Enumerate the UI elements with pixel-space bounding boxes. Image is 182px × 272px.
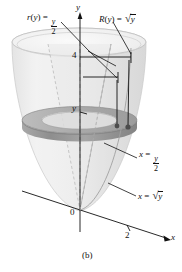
x-axis-arrowhead — [164, 236, 172, 242]
label-parabola-curve: x = √y — [138, 190, 163, 201]
label-line-curve-denominator: 2 — [153, 165, 159, 173]
label-outer-radius-radicand: y — [130, 14, 136, 24]
y-axis-arrowhead — [78, 12, 83, 19]
label-line-curve-lhs: x — [139, 149, 143, 159]
label-outer-radius: R(y) = √y — [99, 13, 136, 24]
label-line-curve: x = y 2 — [139, 150, 160, 173]
label-outer-radius-radical: √y — [124, 13, 136, 24]
label-x-tick-2: 2 — [125, 231, 130, 240]
label-origin: 0 — [70, 208, 75, 217]
label-parabola-curve-lhs: x — [138, 191, 142, 201]
label-parabola-curve-radicand: y — [158, 191, 164, 201]
label-inner-radius: r(y) = y 2 — [27, 13, 57, 36]
label-line-curve-fraction: y 2 — [153, 155, 159, 173]
label-line-curve-equals: = — [145, 149, 150, 159]
label-outer-radius-equals: = — [117, 14, 122, 24]
outer-radius-point — [125, 124, 130, 129]
label-y-axis: y — [76, 3, 80, 12]
label-y-level: y — [72, 104, 76, 113]
label-parabola-curve-radical: √y — [152, 190, 164, 201]
label-outer-radius-paren-close: ) — [112, 14, 115, 24]
label-inner-radius-paren-close: ) — [38, 12, 41, 22]
figure-caption: (b) — [82, 250, 93, 260]
label-x-axis: x — [171, 233, 175, 242]
label-inner-radius-equals: = — [43, 12, 48, 22]
label-line-curve-numerator: y — [153, 155, 159, 163]
label-y-tick-4: 4 — [72, 51, 77, 60]
label-inner-radius-numerator: y — [51, 18, 57, 26]
solid-of-revolution-diagram — [0, 0, 182, 272]
inner-radius-point — [115, 124, 120, 129]
figure-container: r(y) = y 2 R(y) = √y y 4 y x = y 2 x = √… — [0, 0, 182, 272]
label-inner-radius-fraction: y 2 — [51, 18, 57, 36]
leader-x-eq-sqrt-y — [108, 183, 136, 196]
label-parabola-curve-equals: = — [144, 191, 149, 201]
label-inner-radius-denominator: 2 — [51, 28, 57, 36]
